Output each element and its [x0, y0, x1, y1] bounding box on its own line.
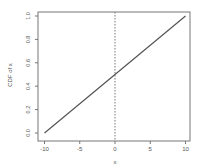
- y-tick-label: 0.4: [25, 82, 31, 90]
- x-tick-label: 0: [113, 146, 117, 152]
- y-tick-label: 0.2: [25, 106, 31, 114]
- y-tick-label: 0.0: [25, 129, 31, 137]
- x-axis: -10-50510: [40, 141, 189, 152]
- y-tick-label: 1.0: [25, 12, 31, 20]
- x-axis-label: x: [114, 159, 117, 165]
- x-tick-label: -5: [77, 146, 83, 152]
- y-axis: 0.00.20.40.60.81.0: [25, 12, 38, 137]
- y-axis-label: CDF of x: [7, 63, 13, 87]
- y-tick-label: 0.8: [25, 36, 31, 44]
- x-tick-label: 5: [149, 146, 153, 152]
- y-tick-label: 0.6: [25, 59, 31, 67]
- x-tick-label: -10: [40, 146, 49, 152]
- cdf-chart: -10-50510 0.00.20.40.60.81.0 x CDF of x: [0, 0, 197, 168]
- x-tick-label: 10: [182, 146, 189, 152]
